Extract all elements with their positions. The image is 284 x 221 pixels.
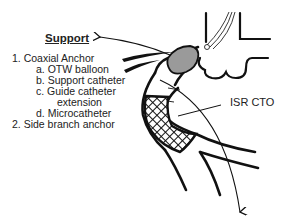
support-arrow: [100, 37, 170, 55]
otw-balloon: [167, 46, 198, 74]
support-title: Support: [45, 33, 89, 44]
isr-cto-pointer: [178, 105, 221, 116]
isr-cto-lesion: [145, 96, 196, 152]
isr-cto-label: ISR CTO: [230, 97, 274, 108]
list-item-side-branch-anchor: 2. Side branch anchor: [12, 119, 115, 130]
guide-catheter-wires: [205, 12, 236, 50]
